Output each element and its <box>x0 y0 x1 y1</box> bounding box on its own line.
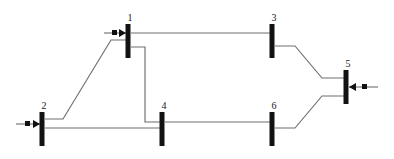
injection-bus-2 <box>16 120 40 128</box>
diagram-canvas: 1 2 3 4 5 6 <box>0 0 394 159</box>
bus-bar-5[interactable] <box>344 70 349 104</box>
injection-bus-2-square <box>25 121 30 126</box>
bus-bar-6[interactable] <box>270 112 275 146</box>
bus-label-3: 3 <box>272 12 277 23</box>
branch-group <box>45 33 344 128</box>
branch-6-5 <box>275 96 344 128</box>
branch-1-4 <box>131 47 160 122</box>
bus-bar-2[interactable] <box>40 112 45 146</box>
injection-bus-1-square <box>112 30 117 35</box>
bus-label-6: 6 <box>272 100 277 111</box>
bus-label-group: 1 2 3 4 5 6 <box>42 12 351 111</box>
bus-label-1: 1 <box>128 12 133 23</box>
branch-2-1 <box>45 40 126 119</box>
injection-bus-1 <box>104 29 126 37</box>
injection-bus-5 <box>349 83 378 91</box>
injection-bus-5-square <box>362 84 367 89</box>
single-line-diagram: 1 2 3 4 5 6 <box>0 0 394 159</box>
bus-bar-1[interactable] <box>126 24 131 58</box>
bus-label-5: 5 <box>346 58 351 69</box>
branch-3-5 <box>275 46 344 78</box>
injection-bus-1-arrowhead <box>119 29 126 37</box>
bus-label-4: 4 <box>162 100 167 111</box>
bus-label-2: 2 <box>42 100 47 111</box>
bus-bar-3[interactable] <box>270 24 275 58</box>
injection-bus-2-arrowhead <box>33 120 40 128</box>
injection-bus-5-arrowhead <box>349 83 356 91</box>
bus-bar-4[interactable] <box>160 112 165 146</box>
